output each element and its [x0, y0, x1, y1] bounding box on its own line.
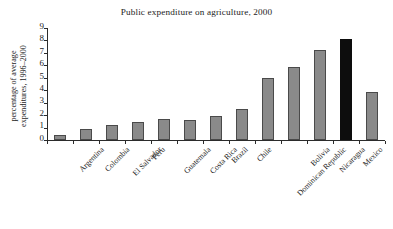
y-tick-label: 5 [40, 72, 45, 81]
y-tick-label: 7 [40, 47, 45, 56]
x-tick-mark [229, 141, 230, 144]
bar-dominican-republic[interactable] [262, 78, 274, 140]
bar-mexico[interactable] [340, 39, 352, 140]
bar-slot [229, 28, 255, 140]
x-tick-mark [281, 141, 282, 144]
y-tick-label: 6 [40, 59, 45, 68]
bar-peru[interactable] [132, 122, 144, 140]
bar-slot [203, 28, 229, 140]
bar-slot [73, 28, 99, 140]
bar-brazil[interactable] [210, 116, 222, 140]
x-axis-label-line: Chile [255, 145, 274, 164]
bar-slot [151, 28, 177, 140]
plot-area: 0123456789 [47, 28, 385, 141]
y-tick-label: 9 [40, 22, 45, 31]
bar-slot [177, 28, 203, 140]
y-axis-title-text: percentage of average expenditures, 1996… [9, 45, 30, 127]
bar-slot [359, 28, 385, 140]
y-axis-title-line-1: percentage of average [9, 45, 20, 127]
bar-slot [125, 28, 151, 140]
x-axis-label-line: Argentina [77, 145, 106, 174]
bar-costa-rica[interactable] [184, 120, 196, 140]
y-axis-title-line-2: expenditures, 1996–2000 [19, 45, 30, 127]
y-tick-label: 0 [40, 134, 45, 143]
x-tick-mark [203, 141, 204, 144]
x-tick-mark [333, 141, 334, 144]
bar-slot [47, 28, 73, 140]
bar-bolivia[interactable] [288, 67, 300, 140]
x-tick-mark [125, 141, 126, 144]
bar-slot [333, 28, 359, 140]
x-axis-label-chile: Chile [255, 145, 274, 164]
y-tick-label: 3 [40, 96, 45, 105]
bar-el-salvador[interactable] [106, 125, 118, 140]
x-axis-label-colombia: Colombia [103, 145, 132, 174]
bar-slot [281, 28, 307, 140]
x-tick-mark [385, 141, 386, 144]
x-tick-mark [47, 141, 48, 144]
x-tick-mark [255, 141, 256, 144]
x-tick-mark [177, 141, 178, 144]
y-tick-label: 8 [40, 34, 45, 43]
y-tick-label: 2 [40, 109, 45, 118]
bar-slot [307, 28, 333, 140]
x-axis-line [47, 140, 385, 141]
x-tick-mark [73, 141, 74, 144]
x-tick-mark [151, 141, 152, 144]
bar-colombia[interactable] [80, 129, 92, 140]
bar-guatemala[interactable] [158, 119, 170, 140]
chart-title: Public expenditure on agriculture, 2000 [0, 7, 393, 17]
x-axis-label-argentina: Argentina [77, 145, 106, 174]
x-tick-mark [99, 141, 100, 144]
x-axis-label-line: Guatemala [182, 145, 213, 176]
y-tick-label: 1 [40, 121, 45, 130]
y-tick-label: 4 [40, 84, 45, 93]
x-tick-mark [307, 141, 308, 144]
x-axis-label-line: Colombia [103, 145, 132, 174]
bar-nicaragua[interactable] [314, 50, 326, 140]
bar-latin-america-and-the-caribbean[interactable] [366, 92, 378, 140]
bar-argentina[interactable] [54, 135, 66, 140]
bar-chart: Public expenditure on agriculture, 2000 … [0, 0, 393, 229]
x-axis-label-guatemala: Guatemala [182, 145, 213, 176]
bar-slot [99, 28, 125, 140]
bar-chile[interactable] [236, 109, 248, 140]
x-tick-mark [359, 141, 360, 144]
bar-slot [255, 28, 281, 140]
